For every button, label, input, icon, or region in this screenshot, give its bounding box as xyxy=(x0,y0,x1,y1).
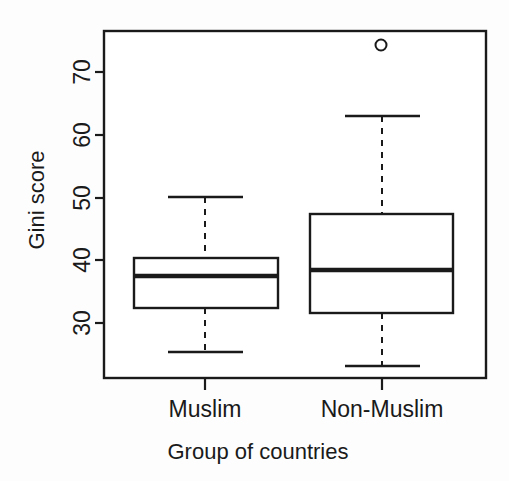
boxplot-figure: 30 40 50 60 70 Gini score Muslim Non-Mus… xyxy=(0,0,509,481)
box-muslim xyxy=(134,258,278,308)
y-tick-label-50: 50 xyxy=(69,185,95,211)
x-axis-ticks xyxy=(205,378,382,390)
plot-frame xyxy=(104,31,486,378)
y-axis-title: Gini score xyxy=(24,150,49,249)
x-tick-label-non-muslim: Non-Muslim xyxy=(321,396,444,422)
y-tick-label-70: 70 xyxy=(69,59,95,85)
y-tick-label-60: 60 xyxy=(69,122,95,148)
box-non-muslim xyxy=(310,214,453,313)
boxplot-canvas: 30 40 50 60 70 Gini score Muslim Non-Mus… xyxy=(0,0,509,481)
x-tick-label-muslim: Muslim xyxy=(169,396,242,422)
y-axis-ticks xyxy=(95,72,104,323)
x-axis-title: Group of countries xyxy=(168,439,349,464)
y-tick-label-40: 40 xyxy=(69,247,95,273)
y-tick-label-30: 30 xyxy=(69,310,95,336)
